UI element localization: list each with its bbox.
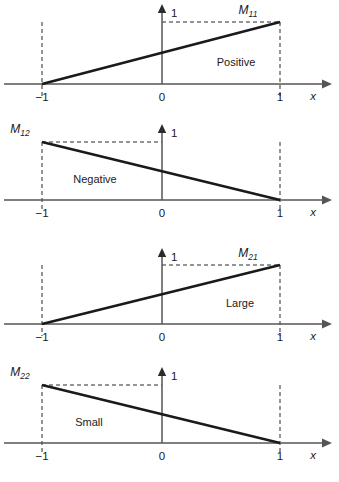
xtick-pos1-m11: 1 — [277, 91, 283, 103]
x-axis-arrowhead-m11 — [322, 80, 332, 89]
panel-label-base-m11: M — [239, 3, 249, 17]
xtick-neg1-m12: −1 — [35, 207, 48, 219]
term-label-m11: Positive — [217, 56, 256, 68]
x-axis-label-m11: x — [309, 90, 317, 102]
xtick-zero-m22: 0 — [159, 450, 165, 462]
panel-label-sub-m22: 22 — [19, 371, 30, 381]
figure-svg: 1 −1 0 1 x M11 Positive 1 −1 0 1 x M12 N… — [0, 0, 339, 482]
term-label-m22: Small — [75, 416, 103, 428]
membership-line-m12 — [42, 142, 280, 200]
panel-label-sub-m11: 11 — [249, 9, 258, 19]
x-axis-label-m21: x — [309, 330, 317, 342]
x-axis-arrowhead-m12 — [322, 196, 332, 205]
xtick-neg1-m21: −1 — [35, 331, 48, 343]
panel-label-m21: M21 — [238, 246, 258, 262]
xtick-pos1-m21: 1 — [277, 331, 283, 343]
x-axis-arrowhead-m21 — [322, 320, 332, 329]
xtick-pos1-m12: 1 — [277, 207, 283, 219]
xtick-neg1-m11: −1 — [35, 91, 48, 103]
panel-m22: 1 −1 0 1 x M22 Small — [4, 365, 332, 462]
y-axis-arrowhead-m12 — [158, 124, 166, 133]
x-axis-label-m22: x — [309, 449, 317, 461]
panel-label-m22: M22 — [10, 365, 30, 381]
x-axis-arrowhead-m22 — [322, 439, 332, 448]
term-label-m12: Negative — [73, 173, 116, 185]
y-axis-arrowhead-m22 — [158, 367, 166, 376]
y-one-label-m21: 1 — [171, 251, 177, 263]
xtick-zero-m11: 0 — [159, 91, 165, 103]
x-axis-label-m12: x — [309, 206, 317, 218]
xtick-pos1-m22: 1 — [277, 450, 283, 462]
panel-label-m11: M11 — [239, 3, 258, 19]
panel-label-sub-m12: 12 — [20, 128, 30, 138]
y-one-label-m11: 1 — [171, 7, 177, 19]
y-axis-arrowhead-m21 — [158, 248, 166, 257]
xtick-zero-m12: 0 — [159, 207, 165, 219]
membership-line-m22 — [42, 385, 280, 443]
y-axis-arrowhead-m11 — [158, 4, 166, 13]
panel-label-sub-m21: 21 — [247, 252, 258, 262]
panel-m11: 1 −1 0 1 x M11 Positive — [4, 3, 332, 103]
y-one-label-m22: 1 — [171, 370, 177, 382]
panel-m12: 1 −1 0 1 x M12 Negative — [4, 122, 332, 219]
xtick-zero-m21: 0 — [159, 331, 165, 343]
panel-m21: 1 −1 0 1 x M21 Large — [4, 246, 332, 343]
panel-label-base-m12: M — [10, 122, 20, 136]
panel-label-base-m21: M — [238, 246, 248, 260]
panel-label-m12: M12 — [10, 122, 30, 138]
term-label-m21: Large — [226, 297, 254, 309]
membership-line-m21 — [42, 265, 280, 324]
xtick-neg1-m22: −1 — [35, 450, 48, 462]
y-one-label-m12: 1 — [171, 127, 177, 139]
panel-label-base-m22: M — [10, 365, 20, 379]
membership-line-m11 — [42, 22, 280, 84]
membership-function-figure: 1 −1 0 1 x M11 Positive 1 −1 0 1 x M12 N… — [0, 0, 339, 482]
